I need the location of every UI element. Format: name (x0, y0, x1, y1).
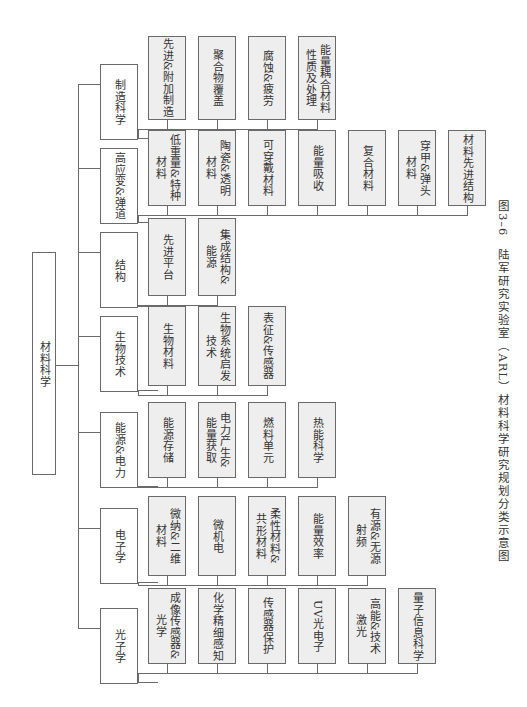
leaf-node-5-4-label: 有源&无源 射频 (353, 508, 381, 564)
leaf-node-2-0: 先进平台 (148, 218, 186, 296)
category-leg-3 (138, 390, 158, 391)
leaf-node-1-4-label: 复合材料 (360, 145, 374, 191)
leaf-stem-0-0 (167, 120, 168, 129)
leaf-node-6-5-label: 量子信息科学 (410, 592, 424, 661)
leaf-stem-6-5 (417, 664, 418, 673)
category-connector-2 (78, 252, 100, 253)
leaf-bus-3 (138, 395, 268, 396)
leaf-stem-1-4 (367, 206, 368, 215)
leaf-node-4-3: 热能科学 (298, 402, 336, 478)
leaf-bus-riser-4 (138, 486, 139, 488)
leaf-node-4-3-label: 热能科学 (310, 417, 324, 463)
leaf-node-5-1: 微机电 (198, 496, 236, 576)
category-node-3: 生物技术 (100, 316, 138, 392)
leaf-node-3-1-label: 生物系统启发 技术 (203, 312, 231, 381)
leaf-node-5-2-label: 柔性材料& 共形材料 (253, 508, 281, 564)
leaf-node-1-0: 低重量&特种 材料 (148, 130, 186, 206)
leaf-node-5-3-label: 能量效率 (310, 513, 324, 559)
leaf-stem-6-0 (167, 664, 168, 673)
leaf-node-5-2: 柔性材料& 共形材料 (248, 496, 286, 576)
leaf-node-2-0-label: 先进平台 (160, 234, 174, 280)
leaf-stem-1-6 (467, 206, 468, 215)
leaf-node-6-4-label: 高能&技术 激光 (353, 598, 381, 654)
leaf-node-5-3: 能量效率 (298, 496, 336, 576)
category-node-2: 结构 (100, 232, 138, 308)
leaf-stem-5-3 (317, 576, 318, 585)
leaf-node-6-2-label: 传感器保护 (260, 597, 274, 655)
leaf-stem-3-0 (167, 386, 168, 395)
leaf-stem-4-1 (217, 478, 218, 487)
leaf-node-5-0-label: 微纳&二维 材料 (153, 508, 181, 564)
leaf-node-6-1: 化学精细感知 (198, 588, 236, 664)
leaf-node-0-3-label: 能量耦合材料 性质及处理 (303, 44, 331, 113)
leaf-stem-1-3 (317, 206, 318, 215)
leaf-bus-4 (138, 487, 318, 488)
leaf-node-0-0: 先进&附加制造 (148, 36, 186, 120)
leaf-node-0-2-label: 腐蚀&疲劳 (260, 50, 274, 106)
leaf-stem-1-0 (167, 206, 168, 215)
root-node: 材料科学 (32, 252, 56, 475)
leaf-stem-0-3 (317, 120, 318, 129)
leaf-stem-4-3 (317, 478, 318, 487)
leaf-stem-5-1 (217, 576, 218, 585)
leaf-stem-0-2 (267, 120, 268, 129)
leaf-stem-1-1 (217, 206, 218, 215)
category-node-6: 光子学 (100, 608, 138, 684)
trunk-line (78, 84, 79, 628)
category-node-1: 高应变&弹道 (100, 148, 138, 224)
leaf-stem-6-4 (367, 664, 368, 673)
leaf-bus-riser-3 (138, 390, 139, 396)
leaf-node-4-1: 电力产生& 能量获取 (198, 402, 236, 478)
leaf-node-4-0-label: 能源存储 (160, 417, 174, 463)
leaf-stem-3-2 (267, 386, 268, 395)
figure-caption: 图3–6 陆军研究实验室（ARL）材料科学研究规划分类示意图 (495, 200, 511, 563)
leaf-bus-riser-6 (138, 673, 139, 683)
leaf-node-1-0-label: 低重量&特种 材料 (153, 134, 181, 202)
category-node-1-label: 高应变&弹道 (112, 152, 126, 220)
category-node-3-label: 生物技术 (112, 331, 126, 377)
leaf-node-0-0-label: 先进&附加制造 (160, 38, 174, 117)
leaf-stem-1-5 (417, 206, 418, 215)
leaf-bus-6 (138, 673, 418, 674)
leaf-node-1-3-label: 能量吸收 (310, 145, 324, 191)
leaf-node-6-2: 传感器保护 (248, 588, 286, 664)
category-node-4-label: 能源&电力 (112, 422, 126, 478)
leaf-stem-5-4 (367, 576, 368, 585)
root-node-label: 材料科学 (37, 341, 51, 387)
category-node-2-label: 结构 (112, 259, 126, 282)
leaf-node-0-1-label: 聚合物覆盖 (210, 49, 224, 107)
leaf-node-5-0: 微纳&二维 材料 (148, 496, 186, 576)
category-connector-4 (78, 432, 100, 433)
category-node-6-label: 光子学 (112, 629, 126, 664)
leaf-bus-riser-2 (138, 305, 139, 307)
root-connector (56, 365, 78, 366)
category-connector-3 (78, 336, 100, 337)
leaf-node-6-1-label: 化学精细感知 (210, 592, 224, 661)
leaf-stem-0-1 (217, 120, 218, 129)
category-node-5: 电子学 (100, 508, 138, 584)
leaf-node-1-6-label: 材料先进结构 (460, 134, 474, 203)
materials-science-taxonomy-diagram: 材料科学制造科学先进&附加制造聚合物覆盖腐蚀&疲劳能量耦合材料 性质及处理高应变… (0, 0, 527, 707)
category-node-5-label: 电子学 (112, 529, 126, 564)
category-connector-0 (78, 84, 100, 85)
leaf-stem-2-1 (217, 296, 218, 305)
leaf-bus-riser-0 (138, 129, 139, 139)
leaf-stem-4-2 (267, 478, 268, 487)
leaf-node-1-5: 穿甲&弹头 材料 (398, 130, 436, 206)
leaf-node-4-1-label: 电力产生& 能量获取 (203, 412, 231, 468)
leaf-node-3-2: 表征&传感器 (248, 306, 286, 386)
leaf-node-2-1: 集成结构& 能源 (198, 218, 236, 296)
leaf-node-6-3: UV光电子 (298, 588, 336, 664)
leaf-node-4-0: 能源存储 (148, 402, 186, 478)
category-leg-5 (138, 582, 158, 583)
leaf-node-6-3-label: UV光电子 (310, 600, 324, 653)
leaf-node-0-3: 能量耦合材料 性质及处理 (298, 36, 336, 120)
leaf-stem-6-3 (317, 664, 318, 673)
leaf-node-6-5: 量子信息科学 (398, 588, 436, 664)
leaf-node-1-4: 复合材料 (348, 130, 386, 206)
category-node-4: 能源&电力 (100, 412, 138, 488)
leaf-node-6-4: 高能&技术 激光 (348, 588, 386, 664)
leaf-node-4-2-label: 燃料单元 (260, 417, 274, 463)
leaf-node-1-2: 可穿戴材料 (248, 130, 286, 206)
leaf-node-1-2-label: 可穿戴材料 (260, 139, 274, 197)
